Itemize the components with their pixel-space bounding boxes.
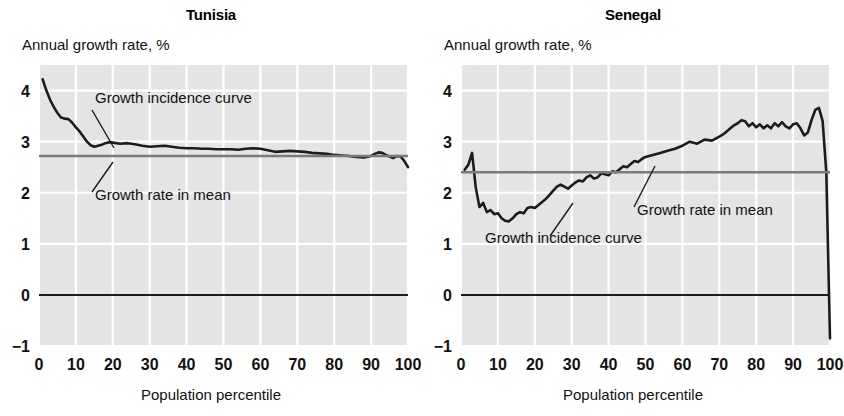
- y-tick-label: 0: [21, 287, 30, 304]
- x-tick-label: 100: [395, 356, 422, 373]
- x-tick-label: 60: [674, 356, 692, 373]
- x-tick-label: 40: [178, 356, 196, 373]
- y-tick-label: 2: [443, 185, 452, 202]
- x-tick-label: 30: [563, 356, 581, 373]
- annotation-label: Growth incidence curve: [95, 89, 252, 106]
- y-tick-label: −1: [434, 338, 452, 355]
- y-tick-label: −1: [12, 338, 30, 355]
- x-tick-label: 80: [325, 356, 343, 373]
- x-tick-label: 60: [252, 356, 270, 373]
- x-tick-label: 0: [457, 356, 466, 373]
- x-tick-label: 20: [526, 356, 544, 373]
- x-tick-label: 90: [362, 356, 380, 373]
- x-axis-caption-senegal: Population percentile: [422, 386, 844, 403]
- x-axis-caption-tunisia: Population percentile: [0, 386, 422, 403]
- panel-senegal: Senegal Annual growth rate, % −101234010…: [422, 0, 844, 416]
- x-tick-label: 30: [141, 356, 159, 373]
- x-tick-label: 50: [637, 356, 655, 373]
- y-tick-label: 3: [21, 134, 30, 151]
- plot-area-tunisia: −1012340102030405060708090100Growth inci…: [0, 0, 422, 416]
- x-tick-label: 80: [747, 356, 765, 373]
- panel-tunisia: Tunisia Annual growth rate, % −101234010…: [0, 0, 422, 416]
- x-tick-label: 100: [817, 356, 844, 373]
- y-tick-label: 1: [443, 236, 452, 253]
- x-tick-label: 70: [288, 356, 306, 373]
- plot-area-senegal: −1012340102030405060708090100Growth rate…: [422, 0, 844, 416]
- annotation-label: Growth rate in mean: [637, 201, 773, 218]
- annotation-label: Growth incidence curve: [485, 229, 642, 246]
- x-tick-label: 20: [104, 356, 122, 373]
- x-tick-label: 10: [489, 356, 507, 373]
- y-tick-label: 4: [443, 83, 452, 100]
- growth-incidence-figure: Tunisia Annual growth rate, % −101234010…: [0, 0, 844, 416]
- x-tick-label: 90: [784, 356, 802, 373]
- y-tick-label: 4: [21, 83, 30, 100]
- x-tick-label: 40: [600, 356, 618, 373]
- y-tick-label: 2: [21, 185, 30, 202]
- x-tick-label: 10: [67, 356, 85, 373]
- annotation-label: Growth rate in mean: [95, 186, 231, 203]
- y-tick-label: 0: [443, 287, 452, 304]
- y-tick-label: 1: [21, 236, 30, 253]
- x-tick-label: 0: [35, 356, 44, 373]
- x-tick-label: 50: [215, 356, 233, 373]
- y-tick-label: 3: [443, 134, 452, 151]
- x-tick-label: 70: [710, 356, 728, 373]
